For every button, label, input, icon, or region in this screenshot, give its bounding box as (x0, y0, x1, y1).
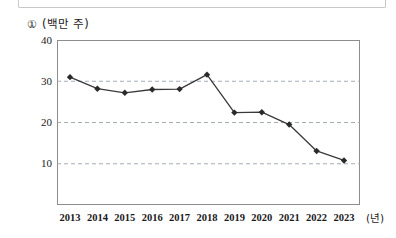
data-point-marker (94, 85, 100, 91)
x-axis-tick-label: 2019 (224, 212, 245, 224)
x-axis-tick-labels: 2013201420152016201720182019202020212022… (57, 212, 360, 228)
x-axis-tick-label: 2015 (114, 212, 135, 224)
y-axis-tick-label: 30 (26, 76, 52, 87)
data-point-marker (67, 74, 73, 80)
x-axis-tick-label: 2020 (251, 212, 272, 224)
x-axis-tick-label: 2021 (279, 212, 300, 224)
line-chart-figure: ① (백만 주) 10203040 2013201420152016201720… (0, 0, 396, 238)
x-axis-tick-label: 2013 (60, 212, 81, 224)
x-axis-tick-label: 2018 (197, 212, 218, 224)
data-point-marker (259, 109, 265, 115)
data-point-marker (341, 157, 347, 163)
data-point-marker (122, 90, 128, 96)
y-axis-tick-labels: 10203040 (22, 0, 52, 238)
x-axis-tick-label: 2023 (334, 212, 355, 224)
chart-plot (57, 40, 360, 205)
data-point-marker (149, 86, 155, 92)
data-point-marker (176, 86, 182, 92)
y-axis-tick-label: 10 (26, 158, 52, 169)
data-point-markers (67, 71, 347, 163)
x-axis-tick-label: 2022 (306, 212, 327, 224)
data-series-line (70, 75, 344, 161)
x-axis-tick-label: 2014 (87, 212, 108, 224)
y-axis-tick-label: 20 (26, 117, 52, 128)
x-axis-tick-label: 2016 (142, 212, 163, 224)
x-axis-unit-label: (년) (366, 212, 384, 224)
y-axis-tick-label: 40 (26, 35, 52, 46)
x-axis-tick-label: 2017 (169, 212, 190, 224)
